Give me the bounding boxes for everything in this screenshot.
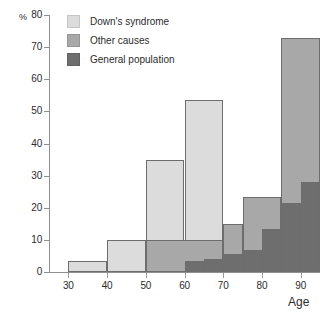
y-tick-label-70: 70	[16, 42, 42, 52]
legend-label-1: Other causes	[90, 36, 149, 46]
legend-label-0: Down's syndrome	[90, 17, 169, 27]
y-tick-label-40: 40	[16, 139, 42, 149]
bar-down-s-syndrome-30-40	[68, 261, 107, 272]
x-tick-60	[185, 273, 186, 278]
bar-general-population-75-80	[243, 250, 262, 272]
bar-general-population-70-75	[223, 254, 242, 272]
x-axis-title: Age	[288, 296, 309, 308]
legend-item-1: Other causes	[67, 31, 175, 50]
legend-label-2: General population	[90, 55, 175, 65]
bar-general-population-60-65	[185, 261, 204, 272]
legend-swatch-icon-1	[67, 34, 80, 47]
x-tick-label-90: 90	[290, 281, 312, 291]
chart-legend: Down's syndromeOther causesGeneral popul…	[67, 12, 175, 69]
x-tick-label-30: 30	[57, 281, 79, 291]
bar-general-population-80-85	[262, 229, 281, 272]
x-tick-30	[68, 273, 69, 278]
legend-swatch-icon-2	[67, 53, 80, 66]
legend-item-2: General population	[67, 50, 175, 69]
x-tick-label-80: 80	[251, 281, 273, 291]
x-tick-40	[107, 273, 108, 278]
y-tick-0	[44, 272, 49, 273]
x-tick-50	[146, 273, 147, 278]
x-tick-80	[262, 273, 263, 278]
chart-container: % 01020304050607080 30405060708090 Age D…	[0, 0, 328, 319]
x-tick-label-40: 40	[96, 281, 118, 291]
bar-general-population-90-95	[301, 182, 320, 272]
y-tick-label-20: 20	[16, 203, 42, 213]
x-tick-label-50: 50	[135, 281, 157, 291]
x-tick-90	[301, 273, 302, 278]
y-tick-label-30: 30	[16, 171, 42, 181]
bar-general-population-85-90	[281, 203, 300, 272]
x-tick-label-60: 60	[174, 281, 196, 291]
y-tick-label-60: 60	[16, 74, 42, 84]
bar-down-s-syndrome-40-50	[107, 240, 146, 272]
y-tick-label-50: 50	[16, 106, 42, 116]
legend-item-0: Down's syndrome	[67, 12, 175, 31]
y-tick-label-0: 0	[16, 267, 42, 277]
legend-swatch-icon-0	[67, 15, 80, 28]
x-tick-label-70: 70	[212, 281, 234, 291]
bar-general-population-65-70	[204, 259, 223, 272]
y-tick-label-10: 10	[16, 235, 42, 245]
y-tick-label-80: 80	[16, 10, 42, 20]
x-tick-70	[223, 273, 224, 278]
